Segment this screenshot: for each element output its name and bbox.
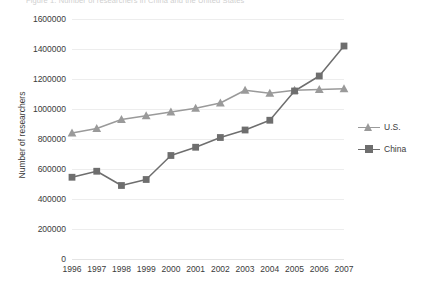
y-axis-tick-label: 0 [61, 254, 66, 264]
legend-label-us: U.S. [384, 122, 401, 132]
data-point-marker-triangle [216, 99, 225, 107]
legend-label-china: China [384, 144, 406, 154]
x-axis-tick-label: 2002 [211, 264, 230, 274]
data-point-marker-square [291, 88, 298, 95]
legend-item-china[interactable]: China [358, 138, 424, 160]
x-axis-tick-label: 1998 [112, 264, 131, 274]
x-axis-tick-label: 2003 [236, 264, 255, 274]
x-axis-tick-label: 2007 [335, 264, 354, 274]
data-point-marker-square [341, 43, 348, 50]
data-point-marker-square [118, 182, 125, 189]
y-axis-tick-label: 1000000 [33, 104, 66, 114]
data-point-marker-square [217, 134, 224, 141]
x-axis-tick-label: 2000 [161, 264, 180, 274]
x-axis-tick-label: 1996 [63, 264, 82, 274]
chart-legend: U.S. China [358, 116, 424, 160]
legend-marker-triangle-icon [358, 121, 380, 133]
series-line-u-s [72, 89, 344, 133]
chart-container: Figure 1. Number of researchers in China… [0, 0, 427, 281]
chart-title: Figure 1. Number of researchers in China… [26, 0, 406, 6]
x-axis-tick-label: 1997 [87, 264, 106, 274]
data-point-marker-square [316, 73, 323, 80]
y-axis-title: Number of researchers [17, 60, 27, 210]
data-point-marker-square [266, 117, 273, 124]
series-group [72, 19, 344, 259]
x-axis-tick-label: 2006 [310, 264, 329, 274]
data-point-marker-square [69, 174, 76, 181]
x-axis-tick-label: 2004 [260, 264, 279, 274]
x-axis-tick-label: 2005 [285, 264, 304, 274]
y-axis-tick-label: 1400000 [33, 44, 66, 54]
x-axis-tick-label: 2001 [186, 264, 205, 274]
data-point-marker-square [242, 127, 249, 134]
data-point-marker-square [192, 144, 199, 151]
legend-marker-square-icon [358, 143, 380, 155]
plot-area: 1600000140000012000001000000800000600000… [72, 19, 344, 259]
y-axis-tick-label: 400000 [38, 194, 66, 204]
y-axis-tick-label: 600000 [38, 164, 66, 174]
y-axis-tick-label: 1200000 [33, 74, 66, 84]
series-line-china [72, 46, 344, 186]
data-point-marker-triangle [241, 86, 250, 94]
x-axis-tick-label: 1999 [137, 264, 156, 274]
gridline [72, 259, 344, 260]
y-axis-tick-label: 200000 [38, 224, 66, 234]
y-axis-tick-label: 1600000 [33, 14, 66, 24]
data-point-marker-square [143, 176, 150, 183]
data-point-marker-square [168, 152, 175, 159]
y-axis-tick-label: 800000 [38, 134, 66, 144]
legend-item-us[interactable]: U.S. [358, 116, 424, 138]
data-point-marker-square [93, 168, 100, 175]
